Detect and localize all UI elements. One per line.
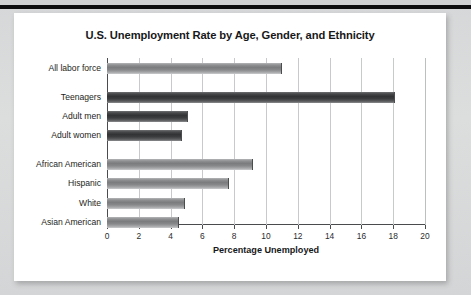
category-label: African American [36, 158, 101, 171]
bar-row: White [107, 198, 425, 209]
x-axis-tick-label: 2 [136, 231, 141, 241]
category-label: All labor force [48, 62, 101, 75]
x-axis-tick-label: 4 [168, 231, 173, 241]
category-label: Adult men [62, 110, 101, 123]
bar-row: Adult women [107, 130, 425, 141]
page-background: U.S. Unemployment Rate by Age, Gender, a… [0, 0, 471, 295]
category-label: Asian American [41, 216, 101, 229]
x-axis-tick-label: 0 [105, 231, 110, 241]
bar [107, 178, 229, 189]
gridline [425, 58, 426, 225]
bar [107, 130, 182, 141]
chart-card: U.S. Unemployment Rate by Age, Gender, a… [14, 13, 446, 281]
bar-row: Hispanic [107, 178, 425, 189]
bar [107, 159, 253, 170]
category-label: Hispanic [68, 177, 101, 190]
x-axis-tick [425, 225, 426, 229]
bar-row: Adult men [107, 111, 425, 122]
x-axis-tick-label: 10 [261, 231, 270, 241]
x-axis-tick-label: 18 [389, 231, 398, 241]
x-axis-title: Percentage Unemployed [107, 245, 425, 255]
plot-area: 02468101214161820 All labor forceTeenage… [107, 58, 425, 225]
bar-row: Teenagers [107, 92, 425, 103]
bar-row: Asian American [107, 217, 425, 228]
x-axis-tick-label: 20 [420, 231, 429, 241]
category-label: Adult women [51, 129, 101, 142]
bar [107, 198, 185, 209]
category-label: White [79, 197, 101, 210]
x-axis-tick-label: 6 [200, 231, 205, 241]
bar [107, 217, 179, 228]
bar-row: All labor force [107, 63, 425, 74]
bar [107, 92, 395, 103]
chart-title: U.S. Unemployment Rate by Age, Gender, a… [14, 29, 446, 41]
bar [107, 63, 282, 74]
x-axis-tick-label: 14 [325, 231, 334, 241]
x-axis-tick-label: 16 [357, 231, 366, 241]
x-axis-tick-label: 8 [232, 231, 237, 241]
x-axis-tick-label: 12 [293, 231, 302, 241]
bar-row: African American [107, 159, 425, 170]
bar [107, 111, 188, 122]
category-label: Teenagers [61, 91, 101, 104]
top-horizontal-rule [0, 5, 471, 9]
